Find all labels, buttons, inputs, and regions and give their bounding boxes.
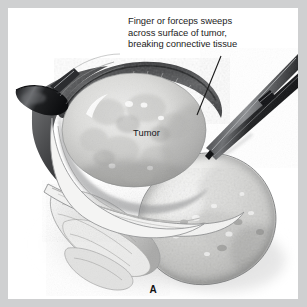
panel-label: A [8, 284, 298, 295]
tumor-label: Tumor [133, 128, 160, 138]
callout-text: Finger or forceps sweeps across surface … [128, 15, 298, 50]
figure-frame: Finger or forceps sweeps across surface … [0, 0, 307, 307]
forceps [200, 48, 298, 168]
surgical-illustration [8, 8, 298, 299]
figure-canvas: Finger or forceps sweeps across surface … [8, 8, 298, 299]
